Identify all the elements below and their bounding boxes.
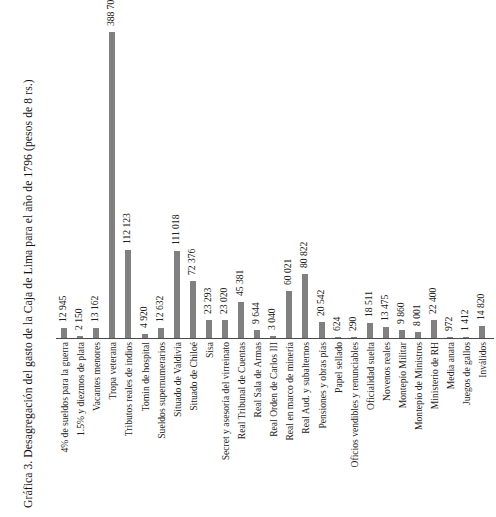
bar[interactable]	[367, 323, 373, 338]
category-label: Montepío Militar	[394, 340, 410, 517]
bar-column[interactable]: 388 709	[104, 8, 120, 338]
bar[interactable]	[190, 281, 196, 338]
category-label: Oficios vendibles y renunciables	[346, 340, 362, 517]
bar-value-label: 290	[347, 317, 358, 331]
category-label: Oficialidad suelta	[362, 340, 378, 517]
bar-value-label: 45 381	[234, 270, 245, 296]
bar-column[interactable]: 20 542	[314, 8, 330, 338]
bar[interactable]	[93, 328, 99, 338]
bar[interactable]	[222, 320, 228, 338]
bar[interactable]	[286, 291, 292, 338]
bar[interactable]	[254, 330, 260, 338]
bar[interactable]	[174, 251, 180, 338]
bar-column[interactable]: 45 381	[233, 8, 249, 338]
bar-column[interactable]: 13 475	[378, 8, 394, 338]
category-label: 1.5% y diezmos de plata	[72, 340, 88, 517]
bar-column[interactable]: 12 945	[56, 8, 72, 338]
bar[interactable]	[206, 320, 212, 338]
bar-column[interactable]: 18 511	[362, 8, 378, 338]
bar-column[interactable]: 23 020	[217, 8, 233, 338]
bar[interactable]	[431, 320, 437, 338]
category-label-text: Situado de Chiloé	[187, 342, 198, 411]
bar-column[interactable]: 23 293	[201, 8, 217, 338]
category-label: Montepío de Ministros	[410, 340, 426, 517]
bar-value-label: 9 860	[395, 303, 406, 325]
bar[interactable]	[319, 322, 325, 338]
bar-column[interactable]: 22 400	[426, 8, 442, 338]
bar-column[interactable]: 624	[330, 8, 346, 338]
bar-value-label: 13 162	[89, 295, 100, 321]
category-label-text: Media anata	[445, 342, 456, 389]
bar-value-label: 112 123	[122, 213, 133, 244]
category-label: Sisa	[201, 340, 217, 517]
category-label: Juegos de gallos	[458, 340, 474, 517]
bar-column[interactable]: 72 376	[185, 8, 201, 338]
bar-column[interactable]: 3 040	[265, 8, 281, 338]
bar[interactable]	[383, 327, 389, 338]
bar-column[interactable]: 8 001	[410, 8, 426, 338]
category-label: Novenos reales	[378, 340, 394, 517]
bar-series: 12 9452 15013 162388 709112 1234 92012 6…	[56, 8, 494, 338]
category-label-text: Ministerio de RH	[429, 342, 440, 409]
bar-value-label: 13 475	[379, 295, 390, 321]
category-label-text: Real Sala de Armas	[252, 342, 263, 417]
bar-column[interactable]: 290	[346, 8, 362, 338]
category-label: Situado de Chiloé	[185, 340, 201, 517]
category-label-text: Real Orden de Carlos III	[268, 342, 279, 437]
bar[interactable]	[238, 302, 244, 338]
bar-value-label: 14 820	[476, 294, 487, 320]
bar[interactable]	[302, 274, 308, 338]
page-title: Gráfica 3. Desagregación del gasto de la…	[22, 79, 35, 508]
category-label-text: Papel sellado	[332, 342, 343, 393]
category-label-text: Inválidos	[477, 342, 488, 378]
category-label: Real Sala de Armas	[249, 340, 265, 517]
bar-column[interactable]: 1 412	[458, 8, 474, 338]
category-label-text: Real Tribunal de Cuentas	[236, 342, 247, 439]
category-label: 4% de sueldos para la guerra	[56, 340, 72, 517]
bar[interactable]	[158, 328, 164, 338]
bar-column[interactable]: 13 162	[88, 8, 104, 338]
category-label: Real Aud. y subalternos	[297, 340, 313, 517]
bar-value-label: 80 822	[299, 242, 310, 268]
category-label: Ministerio de RH	[426, 340, 442, 517]
bar[interactable]	[125, 250, 131, 338]
bar-column[interactable]: 9 644	[249, 8, 265, 338]
bar-value-label: 23 293	[202, 287, 213, 313]
category-label-text: Sisa	[203, 342, 214, 358]
bar-value-label: 624	[331, 317, 342, 331]
bar-value-label: 12 945	[57, 295, 68, 321]
category-label-text: Real Aud. y subalternos	[300, 342, 311, 434]
bar-value-label: 4 920	[138, 307, 149, 329]
plot-area: 12 9452 15013 162388 709112 1234 92012 6…	[56, 8, 496, 517]
category-label: Inválidos	[474, 340, 490, 517]
bar-column[interactable]: 60 021	[281, 8, 297, 338]
category-label-text: Secret y asesoría del virreinato	[219, 342, 230, 460]
bar-value-label: 8 001	[411, 304, 422, 326]
bar-value-label: 9 644	[250, 303, 261, 325]
bar[interactable]	[399, 330, 405, 338]
bar-column[interactable]: 14 820	[474, 8, 490, 338]
bar[interactable]	[109, 32, 115, 338]
bar-column[interactable]: 12 632	[153, 8, 169, 338]
category-label-text: Oficialidad suelta	[364, 342, 375, 410]
category-label: Pensiones y obras pías	[314, 340, 330, 517]
category-label-text: Tropa veterana	[107, 342, 118, 399]
bar-column[interactable]: 112 123	[120, 8, 136, 338]
category-label: Vacantes menores	[88, 340, 104, 517]
bar-column[interactable]: 9 860	[394, 8, 410, 338]
bar-column[interactable]: 80 822	[297, 8, 313, 338]
category-label-text: Tributos reales de indios	[123, 342, 134, 436]
bar-column[interactable]: 111 018	[169, 8, 185, 338]
category-axis-labels: 4% de sueldos para la guerra1.5% y diezm…	[56, 340, 494, 517]
category-label: Real Orden de Carlos III	[265, 340, 281, 517]
category-label-text: Montepío Militar	[397, 342, 408, 408]
category-label: Situado de Valdivia	[169, 340, 185, 517]
category-label-text: Pensiones y obras pías	[316, 342, 327, 429]
category-label: Sueldos supernumerarios	[153, 340, 169, 517]
category-label: Real Tribunal de Cuentas	[233, 340, 249, 517]
bar-column[interactable]: 4 920	[136, 8, 152, 338]
bar-column[interactable]: 972	[442, 8, 458, 338]
bar[interactable]	[479, 326, 485, 338]
bar-column[interactable]: 2 150	[72, 8, 88, 338]
bar[interactable]	[61, 328, 67, 338]
